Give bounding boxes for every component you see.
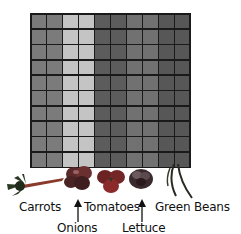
grid-cell — [63, 30, 77, 44]
grid-cell — [127, 30, 141, 44]
grid-cell — [127, 61, 141, 75]
grid-cell — [63, 15, 77, 29]
grid-cell — [175, 45, 189, 59]
grid-cell — [47, 76, 61, 90]
grid-cell — [95, 76, 109, 90]
grid-cell — [175, 76, 189, 90]
grid-cell — [32, 76, 46, 90]
grid-cell — [175, 30, 189, 44]
grid-cell — [47, 91, 61, 105]
grid-cell — [95, 122, 109, 136]
grid-cell — [79, 76, 93, 90]
grid-cell — [47, 15, 61, 29]
grid-cell — [95, 45, 109, 59]
grid-cell — [111, 107, 125, 121]
grid-cell — [143, 15, 157, 29]
grid-cell — [175, 107, 189, 121]
grid-cell — [32, 122, 46, 136]
grid-cell — [32, 153, 46, 167]
grid-cell — [127, 91, 141, 105]
grid-cell — [143, 122, 157, 136]
grid-cell — [159, 122, 173, 136]
carrots-label: Carrots — [19, 201, 61, 213]
grid-cell — [63, 61, 77, 75]
grid-cell — [32, 137, 46, 151]
grid-cell — [143, 107, 157, 121]
grid-cell — [127, 76, 141, 90]
grid-cell — [95, 30, 109, 44]
grid-cell — [143, 45, 157, 59]
grid-cell — [32, 30, 46, 44]
grid-cell — [127, 153, 141, 167]
grid-cell — [63, 91, 77, 105]
grid-cell — [32, 45, 46, 59]
grid-cell — [47, 153, 61, 167]
grid-cell — [143, 30, 157, 44]
grid-cell — [159, 107, 173, 121]
grid-cell — [63, 45, 77, 59]
grid-cell — [95, 61, 109, 75]
grid-cell — [159, 76, 173, 90]
grid-cell — [47, 107, 61, 121]
grid-cell — [127, 137, 141, 151]
grid-cell — [111, 122, 125, 136]
grid-cell — [63, 107, 77, 121]
grid-cell — [95, 91, 109, 105]
grid-cell — [63, 137, 77, 151]
grid-cell — [143, 76, 157, 90]
lettuce-arrow-icon — [136, 198, 148, 222]
grid-cell — [32, 91, 46, 105]
grid-cell — [159, 30, 173, 44]
grid-cell — [79, 45, 93, 59]
grid-cell — [111, 76, 125, 90]
carrots-icon — [4, 172, 66, 198]
grid-cell — [111, 91, 125, 105]
grid-cell — [79, 107, 93, 121]
onions-arrow-icon — [72, 198, 84, 222]
grid-cell — [111, 153, 125, 167]
grid-cell — [143, 61, 157, 75]
grid-cell — [95, 153, 109, 167]
lettuce-label: Lettuce — [122, 222, 165, 234]
grid-cell — [79, 15, 93, 29]
tomatoes-label: Tomatoes — [84, 201, 140, 213]
tomatoes-icon — [96, 168, 126, 194]
grid-cell — [159, 45, 173, 59]
garden-grid — [30, 13, 191, 168]
grid-cell — [47, 122, 61, 136]
grid-cell — [47, 45, 61, 59]
grid-cell — [143, 91, 157, 105]
grid-cell — [32, 61, 46, 75]
grid-cell — [175, 15, 189, 29]
grid-cell — [159, 91, 173, 105]
grid-cell — [111, 61, 125, 75]
grid-cell — [159, 137, 173, 151]
grid-cell — [175, 137, 189, 151]
grid-cell — [95, 15, 109, 29]
grid-cell — [143, 153, 157, 167]
grid-cell — [143, 137, 157, 151]
grid-cell — [79, 61, 93, 75]
green-beans-label: Green Beans — [155, 201, 230, 213]
grid-cell — [111, 30, 125, 44]
grid-cell — [32, 107, 46, 121]
grid-cell — [47, 61, 61, 75]
grid-cell — [79, 30, 93, 44]
grid-cell — [79, 122, 93, 136]
grid-cell — [175, 61, 189, 75]
grid-cell — [111, 137, 125, 151]
grid-cell — [159, 61, 173, 75]
grid-cell — [47, 137, 61, 151]
green-beans-icon — [160, 164, 196, 200]
grid-cell — [32, 15, 46, 29]
grid-cell — [175, 91, 189, 105]
grid-cell — [127, 15, 141, 29]
grid-cell — [95, 137, 109, 151]
grid-cell — [95, 107, 109, 121]
grid-cell — [127, 107, 141, 121]
grid-cell — [47, 30, 61, 44]
grid-cell — [159, 15, 173, 29]
onions-icon — [62, 164, 96, 192]
grid-cell — [79, 91, 93, 105]
grid-cell — [175, 122, 189, 136]
